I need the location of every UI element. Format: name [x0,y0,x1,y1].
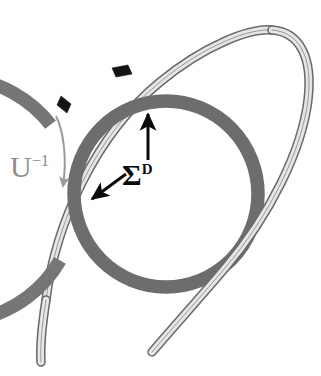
figure-root: U−1 ΣD [0,0,321,376]
diagram-canvas [0,0,321,376]
sigma-diagonal-arrow [92,174,126,199]
ring-marker-top [112,65,132,77]
u-inverse-curved-arrow [56,116,65,186]
ribbon-front-segment [41,30,309,362]
ring-marker-upper-left [57,96,71,113]
outer-torus-ring [0,71,64,330]
